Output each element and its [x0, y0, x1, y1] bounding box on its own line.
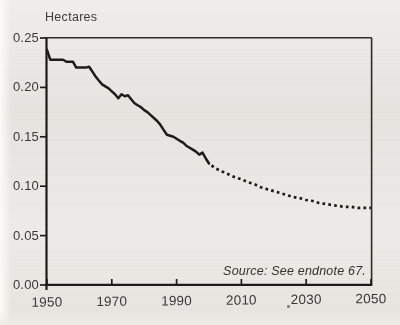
chart-figure: Hectares 0.000.050.100.150.200.25 195019…	[0, 0, 400, 325]
x-tick-label: 2030	[284, 292, 328, 307]
y-tick-label: 0.05	[0, 228, 39, 244]
y-tick-label: 0.15	[0, 129, 39, 145]
source-note: Source: See endnote 67.	[223, 264, 366, 278]
x-tick-label: 2050	[349, 291, 393, 306]
y-tick-label: 0.20	[0, 79, 39, 95]
series-historical	[47, 50, 209, 164]
y-axis-unit-label: Hectares	[45, 10, 97, 24]
y-tick-label: 0.00	[0, 277, 39, 293]
x-tick-label: 1970	[90, 294, 134, 309]
y-tick-label: 0.25	[0, 30, 39, 46]
x-tick-label: 1950	[25, 294, 69, 309]
x-tick-label: 2010	[219, 292, 263, 307]
x-tick-label: 1990	[155, 293, 199, 308]
y-axis-labels: 0.000.050.100.150.200.25	[0, 0, 39, 325]
scan-speck	[287, 305, 290, 308]
y-tick-label: 0.10	[0, 178, 39, 194]
series-projection	[209, 164, 371, 208]
